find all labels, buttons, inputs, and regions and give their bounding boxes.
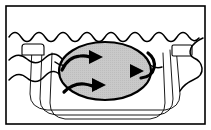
right-handle-icon (172, 45, 192, 56)
diagram-canvas (0, 0, 211, 130)
left-handle-icon (22, 44, 44, 55)
figure-container (0, 0, 211, 130)
